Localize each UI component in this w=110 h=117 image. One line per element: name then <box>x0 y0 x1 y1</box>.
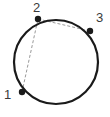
circle-outline <box>14 20 98 104</box>
circle-diagram-canvas <box>0 0 110 117</box>
point-marker-1[interactable] <box>19 89 25 95</box>
point-label-2: 2 <box>33 1 40 14</box>
point-label-3: 3 <box>96 11 103 24</box>
point-label-1: 1 <box>4 88 11 101</box>
circle-diagram-figure: 1 2 3 <box>0 0 110 117</box>
point-marker-3[interactable] <box>87 28 93 34</box>
point-marker-2[interactable] <box>35 16 41 22</box>
